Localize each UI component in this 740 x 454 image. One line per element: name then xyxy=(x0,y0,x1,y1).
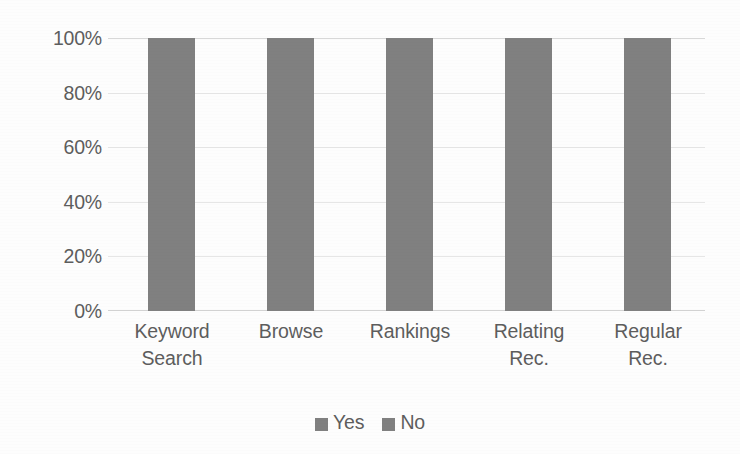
bar-rankings-yes xyxy=(386,38,433,311)
bar-regular-rec-yes xyxy=(624,38,671,311)
x-tick-label-keyword-search: Keyword Search xyxy=(112,318,232,372)
bar-relating-rec-yes xyxy=(505,38,552,311)
y-tick-label-40: 40% xyxy=(2,193,102,213)
legend-item-yes[interactable]: Yes xyxy=(315,413,365,433)
legend-label-yes: Yes xyxy=(333,413,365,433)
legend-swatch-icon-yes xyxy=(315,418,328,431)
y-tick-label-20: 20% xyxy=(2,247,102,267)
y-tick-label-100: 100% xyxy=(2,29,102,49)
y-tick-label-60: 60% xyxy=(2,138,102,158)
x-axis: Keyword Search Browse Rankings Relating … xyxy=(108,318,705,390)
x-tick-label-browse: Browse xyxy=(231,318,351,345)
bars-layer xyxy=(108,38,705,311)
x-tick-label-regular-rec: Regular Rec. xyxy=(588,318,708,372)
y-tick-label-80: 80% xyxy=(2,84,102,104)
legend-item-no[interactable]: No xyxy=(382,413,425,433)
bar-chart: 100% 80% 60% 40% 20% 0% Keyword Search B… xyxy=(0,0,740,454)
x-tick-label-rankings: Rankings xyxy=(350,318,470,345)
plot-area xyxy=(108,38,705,311)
x-tick-label-relating-rec: Relating Rec. xyxy=(469,318,589,372)
bar-keyword-search-yes xyxy=(148,38,195,311)
bar-browse-yes xyxy=(267,38,314,311)
y-axis: 100% 80% 60% 40% 20% 0% xyxy=(0,0,102,454)
legend-swatch-icon-no xyxy=(382,418,395,431)
chart-legend: Yes No xyxy=(0,406,740,440)
y-tick-label-0: 0% xyxy=(2,302,102,322)
legend-label-no: No xyxy=(400,413,425,433)
